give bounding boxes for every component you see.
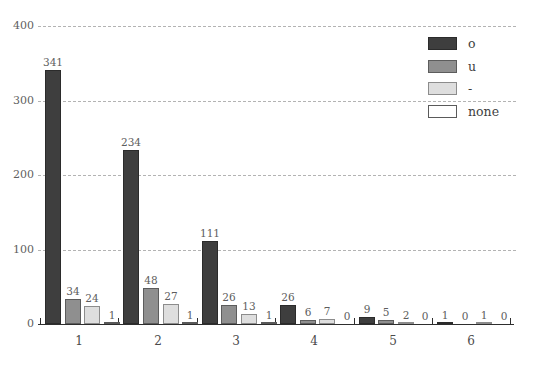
bar-o-2 <box>123 150 139 324</box>
bar-value-label: 48 <box>131 275 171 286</box>
y-axis-tick-label: 100 <box>4 244 34 256</box>
x-axis-category-label: 5 <box>373 334 413 348</box>
bar-value-label: 0 <box>484 311 524 322</box>
legend-label: u <box>468 60 476 74</box>
legend-label: none <box>468 105 499 119</box>
y-axis-tick-label: 300 <box>4 95 34 107</box>
bar-value-label: 234 <box>111 137 151 148</box>
x-axis-category-label: 3 <box>216 334 256 348</box>
bar-o-5 <box>359 317 375 324</box>
gridline <box>38 175 516 176</box>
x-axis-category-label: 1 <box>59 334 99 348</box>
x-axis-category-label: 2 <box>138 334 178 348</box>
gridline <box>38 101 516 102</box>
bar-value-label: 341 <box>33 57 73 68</box>
legend-swatch-- <box>428 82 457 95</box>
bar-value-label: 24 <box>72 293 112 304</box>
bar-value-label: 26 <box>268 292 308 303</box>
x-axis-line <box>38 324 514 325</box>
bar-value-label: 111 <box>190 228 230 239</box>
legend-swatch-u <box>428 60 457 73</box>
legend-label: o <box>468 37 476 51</box>
legend-swatch-none <box>428 105 457 118</box>
bar-value-label: 27 <box>151 291 191 302</box>
bar-o-3 <box>202 241 218 324</box>
y-axis-tick-label: 400 <box>4 20 34 32</box>
bar-chart: 0100200300400341342411234482712111261313… <box>0 0 534 369</box>
y-axis-tick-label: 0 <box>4 318 34 330</box>
x-axis-category-label: 6 <box>451 334 491 348</box>
gridline <box>38 250 516 251</box>
y-axis-tick-label: 200 <box>4 169 34 181</box>
legend-swatch-o <box>428 37 457 50</box>
legend-label: - <box>468 82 472 96</box>
gridline <box>38 26 516 27</box>
x-axis-category-label: 4 <box>294 334 334 348</box>
